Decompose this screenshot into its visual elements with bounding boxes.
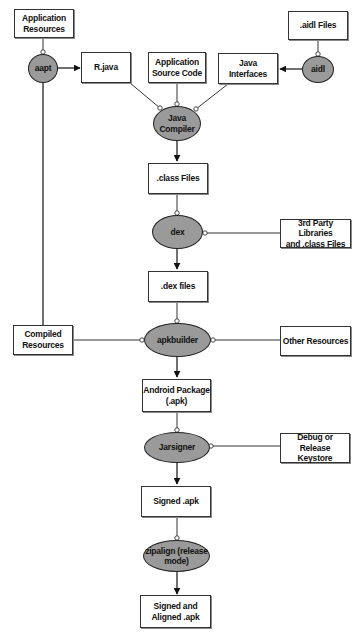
- label: .aidl Files: [300, 20, 337, 31]
- label: apkbuilder: [157, 335, 198, 345]
- label: .class Files: [157, 173, 200, 184]
- artifact-class-files: .class Files: [148, 163, 208, 194]
- label: zipalign (release mode): [145, 546, 208, 566]
- label: 3rd Party Libraries and .class Files: [281, 218, 350, 250]
- artifact-application-resources: Application Resources: [14, 9, 74, 38]
- process-apkbuilder: apkbuilder: [144, 323, 211, 357]
- label: Java Compiler: [159, 113, 194, 133]
- process-jarsigner: Jarsigner: [144, 432, 210, 463]
- label: Jarsigner: [159, 442, 195, 452]
- label: Signed .apk: [153, 496, 199, 507]
- artifact-debug-release-keystore: Debug or Release Keystore: [280, 433, 350, 463]
- artifact-r-java: R.java: [81, 52, 131, 83]
- artifact-signed-apk: Signed .apk: [141, 486, 211, 517]
- label: Other Resources: [283, 336, 349, 347]
- artifact-android-package: Android Package (.apk): [142, 379, 211, 412]
- artifact-third-party-libraries: 3rd Party Libraries and .class Files: [280, 219, 351, 248]
- label: Android Package (.apk): [143, 385, 209, 406]
- artifact-java-interfaces: Java Interfaces: [218, 53, 278, 84]
- label: Application Resources: [22, 13, 66, 34]
- label: R.java: [94, 62, 118, 73]
- artifact-dex-files: .dex files: [148, 271, 208, 302]
- label: Java Interfaces: [229, 58, 267, 79]
- process-java-compiler: Java Compiler: [153, 106, 201, 141]
- artifact-signed-aligned-apk: Signed and Aligned .apk: [140, 595, 211, 628]
- label: aapt: [35, 63, 52, 73]
- artifact-other-resources: Other Resources: [280, 326, 351, 356]
- android-build-diagram: Application Resources .aidl Files R.java…: [0, 0, 359, 641]
- process-dex: dex: [152, 215, 203, 249]
- label: Compiled Resources: [22, 329, 64, 350]
- label: Application Source Code: [152, 57, 202, 78]
- artifact-application-source-code: Application Source Code: [148, 52, 206, 83]
- process-zipalign: zipalign (release mode): [143, 540, 210, 572]
- artifact-compiled-resources: Compiled Resources: [13, 325, 73, 355]
- label: aidl: [311, 64, 325, 74]
- process-aidl: aidl: [302, 56, 334, 83]
- label: Debug or Release Keystore: [281, 432, 349, 464]
- label: Signed and Aligned .apk: [151, 601, 199, 622]
- process-aapt: aapt: [28, 54, 58, 83]
- edge-rjava-compiler: [130, 83, 160, 108]
- label: .dex files: [161, 281, 195, 292]
- label: dex: [170, 227, 184, 237]
- artifact-aidl-files: .aidl Files: [288, 11, 348, 40]
- edge-interfaces-compiler: [196, 84, 228, 109]
